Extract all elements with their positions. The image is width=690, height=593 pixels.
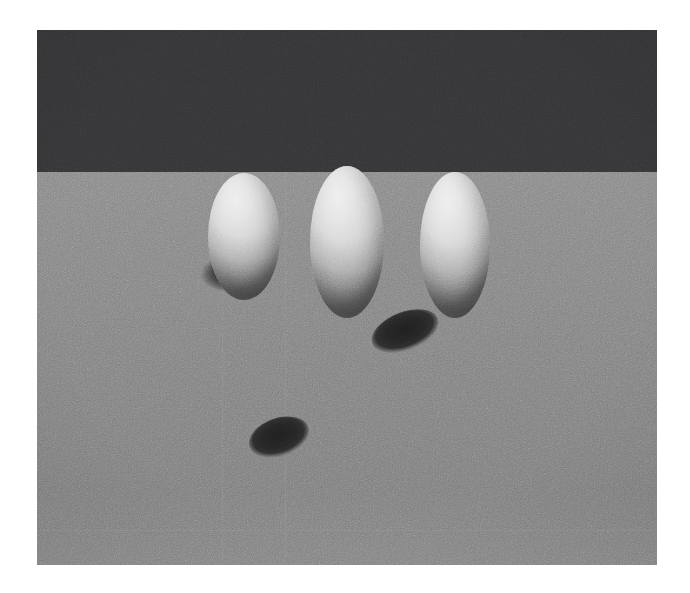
ground-seam-vertical-right [285,172,286,565]
ellipsoid-left-terminator [208,173,280,300]
ellipsoid-center-terminator [310,166,384,318]
ellipsoid-left [208,173,280,300]
ground-seam-horizontal [37,530,657,531]
ellipsoid-center [310,166,384,318]
page-canvas [0,0,690,593]
ellipsoid-right [420,172,490,318]
ellipsoid-right-terminator [420,172,490,318]
rendered-3d-scene [37,30,657,565]
scene-backdrop [37,30,657,172]
